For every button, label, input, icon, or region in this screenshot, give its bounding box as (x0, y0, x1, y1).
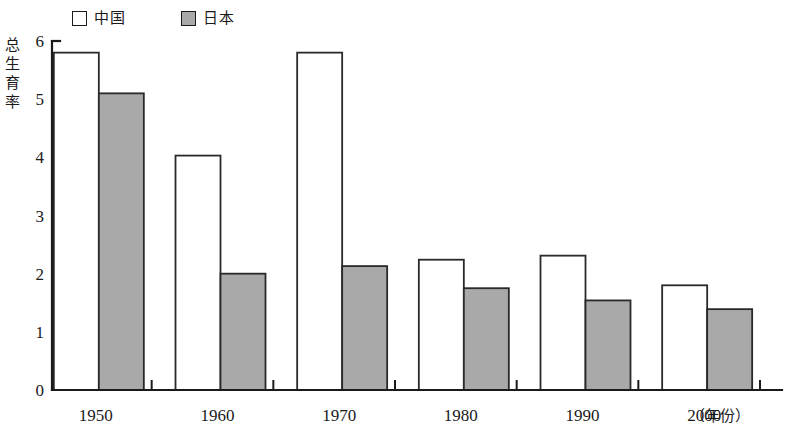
bar-日本-1970 (342, 266, 387, 390)
bar-日本-1990 (586, 300, 631, 390)
bar-日本-2000 (707, 309, 752, 390)
bar-日本-1950 (99, 93, 144, 390)
y-tick-label: 0 (36, 381, 45, 400)
y-tick-label: 4 (36, 148, 45, 167)
plot-area: 0123456 195019601970198019902000 （年份） (0, 0, 788, 432)
y-tick-label: 3 (36, 207, 45, 226)
y-tick-label: 1 (36, 323, 45, 342)
y-tick-label: 5 (36, 90, 45, 109)
x-tick-label-1950: 1950 (79, 406, 113, 425)
x-axis-unit-label: （年份） (690, 407, 750, 425)
x-tick-label-1980: 1980 (444, 406, 478, 425)
fertility-rate-bar-chart: 中国 日本 总生育率 0123456 195019601970198019902… (0, 0, 788, 432)
x-tick-label-1990: 1990 (566, 406, 600, 425)
bar-中国-1990 (541, 256, 586, 390)
bar-中国-1980 (419, 260, 464, 390)
bar-中国-1970 (297, 53, 342, 390)
y-axis-tick-labels: 0123456 (36, 32, 45, 400)
x-axis-tick-labels: 195019601970198019902000 (79, 406, 721, 425)
bar-中国-1960 (176, 156, 221, 390)
x-tick-label-1970: 1970 (322, 406, 356, 425)
bar-日本-1960 (221, 274, 266, 390)
bar-日本-1980 (464, 288, 509, 390)
y-tick-label: 6 (36, 32, 45, 51)
bar-中国-2000 (662, 285, 707, 390)
bar-中国-1950 (54, 53, 99, 390)
x-tick-label-1960: 1960 (201, 406, 235, 425)
bars-layer (54, 53, 752, 390)
y-tick-label: 2 (36, 265, 45, 284)
